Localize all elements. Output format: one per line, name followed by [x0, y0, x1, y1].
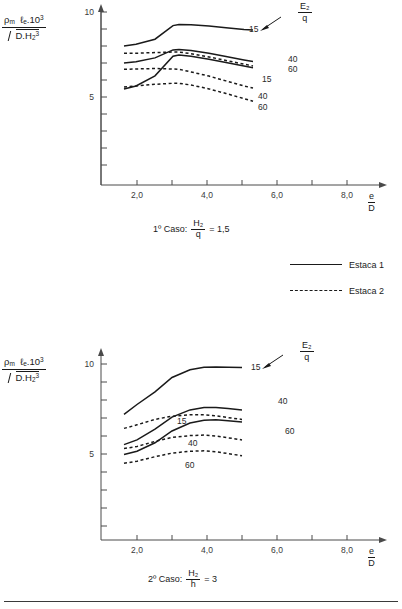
y-axis-arrow-2	[98, 348, 104, 356]
x-tick-label-2-fig2: 2,0	[124, 545, 150, 555]
x-axis-title-denominator-2: D	[368, 558, 375, 569]
series-annotation-denominator-2: q	[300, 352, 314, 363]
curve-label-e1-40-fig1: 40	[288, 54, 297, 64]
x-axis-title-numerator-2: e	[368, 547, 375, 558]
x-axis-title-2: e D	[368, 547, 375, 569]
curves-estaca-1-fig2	[124, 367, 242, 455]
axes-and-curves-1	[0, 0, 402, 215]
x-axis-ticks-2	[137, 535, 347, 540]
curve-label-e2-15-fig2: 15	[177, 416, 186, 426]
curves-estaca-2-fig1	[124, 52, 253, 101]
curve-label-e1-40-fig2: 40	[278, 396, 287, 406]
curves-estaca-1-fig1	[124, 24, 253, 89]
curve-label-e1-15-fig1: 15	[249, 24, 258, 34]
caption-fraction-2: H₂ h	[186, 569, 200, 589]
curve-label-e1-60-fig2: 60	[285, 426, 294, 436]
plot-area-2: ρm ℓe.103 D.H23	[0, 340, 402, 555]
curve-label-e2-60-fig2: 60	[185, 460, 194, 470]
x-tick-label-8-fig1: 8,0	[334, 190, 360, 200]
legend-line-solid-icon	[290, 263, 342, 267]
legend-label-estaca-2: Estaca 2	[349, 286, 384, 296]
figure-first-case: ρm ℓe.103 D.H23	[0, 0, 402, 250]
y-tick-label-10-fig2: 10	[72, 359, 94, 369]
caption-fraction-1: H₂ q	[191, 219, 205, 239]
legend-item-estaca-2: Estaca 2	[290, 278, 402, 304]
y-tick-label-10-fig1: 10	[72, 7, 94, 17]
series-annotation-denominator-1: q	[298, 13, 312, 24]
x-tick-label-4-fig1: 4,0	[194, 190, 220, 200]
axes-and-curves-2	[0, 340, 402, 555]
caption-figure-1: 1º Caso: H₂ q = 1,5	[153, 219, 230, 239]
x-tick-label-4-fig2: 4,0	[194, 545, 220, 555]
caption-prefix-1: 1º Caso:	[153, 224, 187, 234]
y-tick-label-5-fig1: 5	[72, 92, 94, 102]
x-tick-label-6-fig1: 6,0	[264, 190, 290, 200]
series-annotation-2: E₂ q	[300, 341, 314, 363]
caption-value-2: = 3	[204, 574, 217, 584]
y-axis-ticks-2	[101, 364, 107, 526]
caption-denominator-1: q	[191, 230, 205, 240]
footer-divider	[4, 601, 398, 602]
caption-denominator-2: h	[186, 580, 200, 590]
y-tick-label-5-fig2: 5	[72, 449, 94, 459]
series-annotation-numerator-2: E₂	[300, 341, 314, 352]
legend-item-estaca-1: Estaca 1	[290, 252, 402, 278]
legend-line-dashed-icon	[290, 289, 342, 293]
caption-value-1: = 1,5	[209, 224, 229, 234]
x-axis-arrow-1	[379, 182, 387, 188]
x-axis-title-1: e D	[368, 192, 375, 214]
series-annotation-1: E₂ q	[298, 2, 312, 24]
curve-label-e2-15-fig1: 15	[262, 74, 271, 84]
curve-label-e1-60-fig1: 60	[288, 64, 297, 74]
x-tick-label-6-fig2: 6,0	[264, 545, 290, 555]
caption-prefix-2: 2º Caso:	[148, 574, 182, 584]
legend-label-estaca-1: Estaca 1	[349, 260, 384, 270]
curve-label-e1-15-fig2: 15	[251, 362, 260, 372]
y-axis-ticks-1	[101, 12, 107, 165]
figure-second-case: ρm ℓe.103 D.H23	[0, 340, 402, 600]
y-axis-arrow-1	[98, 4, 104, 12]
x-axis-arrow-2	[379, 537, 387, 543]
x-axis-title-denominator-1: D	[368, 203, 375, 214]
series-annotation-numerator-1: E₂	[298, 2, 312, 13]
curve-label-e2-40-fig2: 40	[188, 438, 197, 448]
caption-figure-2: 2º Caso: H₂ h = 3	[148, 569, 217, 589]
x-tick-label-8-fig2: 8,0	[334, 545, 360, 555]
plot-area-1: ρm ℓe.103 D.H23	[0, 0, 402, 215]
legend: Estaca 1 Estaca 2	[290, 252, 402, 304]
x-axis-title-numerator-1: e	[368, 192, 375, 203]
x-tick-label-2-fig1: 2,0	[124, 190, 150, 200]
x-axis-ticks-1	[137, 180, 347, 185]
curve-label-e2-40-fig1: 40	[258, 91, 267, 101]
curve-label-e2-60-fig1: 60	[258, 102, 267, 112]
